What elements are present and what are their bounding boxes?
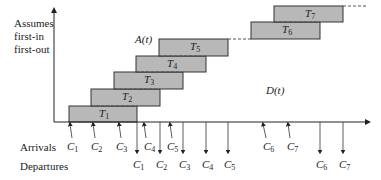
bars — [69, 6, 343, 122]
departures-row-label: Departures — [20, 160, 68, 172]
departure-c3: C3 — [179, 158, 190, 174]
arrival-c1: C1 — [67, 140, 78, 156]
bar-label-t3: T3 — [144, 73, 154, 87]
arrival-c2: C2 — [91, 140, 102, 156]
departure-c6: C6 — [316, 158, 327, 174]
bar-label-t5: T5 — [190, 40, 200, 54]
axis-note-line-2: first-in — [14, 30, 44, 42]
bar-label-t1: T1 — [99, 107, 109, 121]
departure-c1: C1 — [133, 158, 144, 174]
bar-label-t7: T7 — [305, 7, 315, 21]
departures-curve-label: D(t) — [266, 84, 284, 96]
axis-note-line-3: first-out — [14, 43, 49, 55]
arrival-c6: C6 — [263, 140, 274, 156]
bar-label-t2: T2 — [122, 90, 132, 104]
arrivals-curve-label: A(t) — [135, 33, 152, 45]
arrival-c3: C3 — [116, 140, 127, 156]
arrival-c5: C5 — [167, 140, 178, 156]
departure-c4: C4 — [202, 158, 213, 174]
arrival-c4: C4 — [144, 140, 155, 156]
axis-note-line-1: Assumes — [14, 17, 54, 29]
queue-diagram — [0, 0, 381, 180]
departure-c2: C2 — [156, 158, 167, 174]
arrival-c7: C7 — [287, 140, 298, 156]
bar-label-t4: T4 — [167, 57, 177, 71]
arrivals-row-label: Arrivals — [20, 141, 56, 153]
bar-label-t6: T6 — [282, 23, 292, 37]
departure-c5: C5 — [224, 158, 235, 174]
departure-c7: C7 — [339, 158, 350, 174]
